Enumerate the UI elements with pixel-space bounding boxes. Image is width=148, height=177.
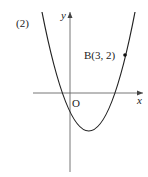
y-axis-arrow-icon — [68, 12, 73, 18]
origin-label: O — [72, 97, 80, 109]
parabola-curve — [42, 12, 135, 131]
graph-figure: (2) y x O B(3, 2) — [0, 0, 148, 177]
point-b-label: B(3, 2) — [84, 49, 116, 62]
y-axis-label: y — [60, 9, 66, 21]
problem-label: (2) — [16, 17, 29, 30]
point-b-marker — [123, 53, 127, 57]
x-axis-label: x — [136, 94, 142, 106]
